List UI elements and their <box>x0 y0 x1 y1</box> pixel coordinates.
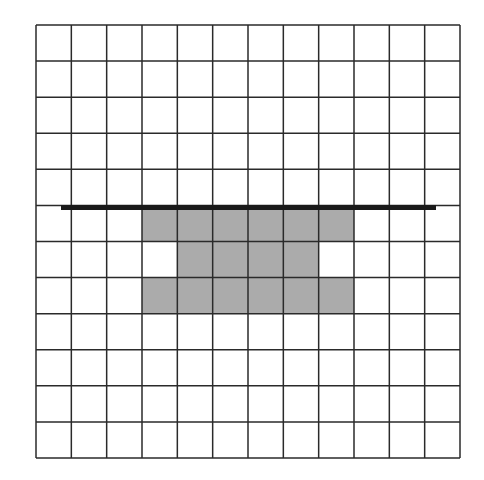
shaded-cell <box>177 278 212 314</box>
shaded-cell <box>213 242 248 278</box>
shaded-cell <box>283 205 318 241</box>
shaded-cell <box>177 205 212 241</box>
shaded-cell <box>319 205 354 241</box>
shaded-cell <box>319 278 354 314</box>
shaded-cell <box>248 278 283 314</box>
shaded-cell <box>248 242 283 278</box>
grid-lines <box>36 25 460 458</box>
shaded-cell <box>283 242 318 278</box>
shaded-cell <box>248 205 283 241</box>
shaded-cell <box>177 242 212 278</box>
shaded-cell <box>142 205 177 241</box>
shaded-cell <box>142 278 177 314</box>
shaded-cell <box>283 278 318 314</box>
shaded-cell <box>213 205 248 241</box>
shaded-cell <box>213 278 248 314</box>
grid-diagram <box>0 0 484 480</box>
